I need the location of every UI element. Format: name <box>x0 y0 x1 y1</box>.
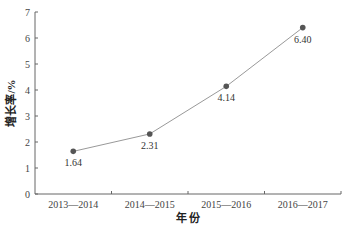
data-label: 6.40 <box>294 34 312 45</box>
data-point <box>223 84 229 90</box>
line-chart: 01234567 2013—20142014—20152015—20162016… <box>0 0 347 231</box>
y-tick-label: 2 <box>25 137 30 148</box>
data-point <box>70 149 76 155</box>
y-tick-label: 3 <box>25 111 30 122</box>
y-tick-label: 1 <box>25 163 30 174</box>
y-tick-label: 0 <box>25 189 30 200</box>
x-tick-label: 2013—2014 <box>48 199 98 210</box>
x-tick-label: 2014—2015 <box>125 199 175 210</box>
y-tick-label: 7 <box>25 7 30 18</box>
data-series: 1.642.314.146.40 <box>65 25 312 169</box>
y-axis-ticks: 01234567 <box>25 7 38 200</box>
x-tick-label: 2016—2017 <box>278 199 328 210</box>
y-tick-label: 6 <box>25 33 30 44</box>
y-tick-label: 5 <box>25 59 30 70</box>
x-axis-title: 年 份 <box>176 211 202 224</box>
x-tick-label: 2015—2016 <box>201 199 251 210</box>
y-axis-title: 增长率/% <box>4 79 17 126</box>
data-label: 2.31 <box>141 140 159 151</box>
data-point <box>147 131 153 137</box>
y-tick-label: 4 <box>25 85 30 96</box>
data-label: 1.64 <box>65 157 83 168</box>
series-line <box>73 28 303 152</box>
data-point <box>300 25 306 31</box>
data-label: 4.14 <box>218 92 236 103</box>
